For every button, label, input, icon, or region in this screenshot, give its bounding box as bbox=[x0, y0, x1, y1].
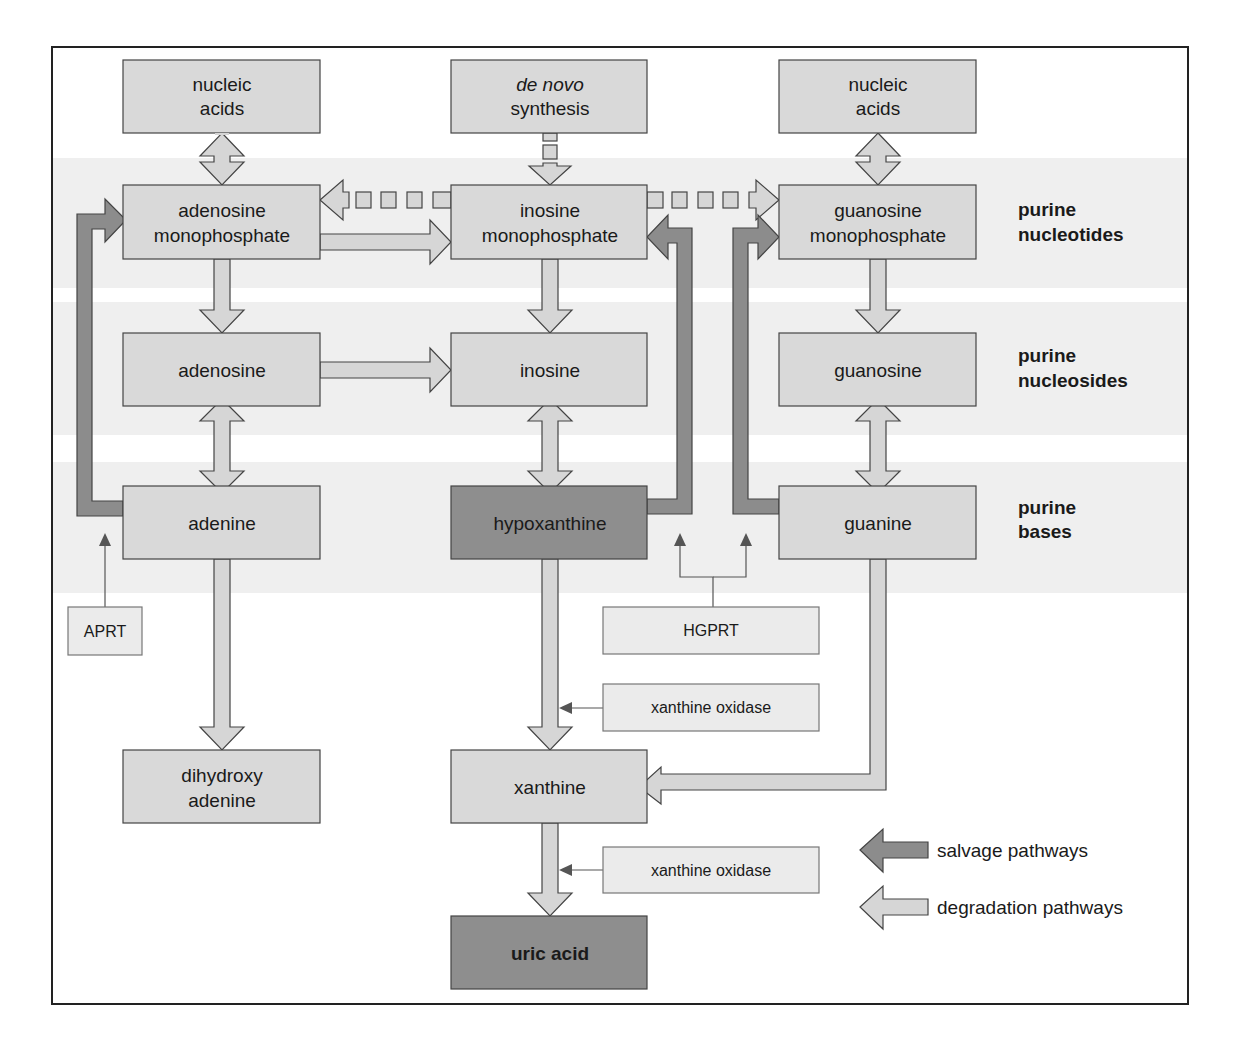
salvage-legend-arrow-icon bbox=[860, 829, 928, 872]
row-label-nucleotides-2: nucleotides bbox=[1018, 224, 1124, 245]
purine-metabolism-diagram: nucleic acids de novo synthesis nucleic … bbox=[0, 0, 1236, 1051]
legend-labels: salvage pathways degradation pathways bbox=[937, 840, 1123, 918]
label-de-novo: de novo bbox=[516, 74, 584, 95]
box-dihydroxy-adenine bbox=[123, 750, 320, 823]
label-dihydroxy: dihydroxy bbox=[181, 765, 263, 786]
label-hgprt: HGPRT bbox=[683, 622, 739, 639]
row-label-bases-1: purine bbox=[1018, 497, 1076, 518]
label-guanosine: guanosine bbox=[834, 360, 922, 381]
legend bbox=[860, 829, 928, 929]
label-amp-1: adenosine bbox=[178, 200, 266, 221]
label-aprt: APRT bbox=[84, 623, 127, 640]
label-guanine: guanine bbox=[844, 513, 912, 534]
label-adenosine: adenosine bbox=[178, 360, 266, 381]
label-nucleic-acids-right-1: nucleic bbox=[848, 74, 907, 95]
label-uric-acid: uric acid bbox=[511, 943, 589, 964]
label-xanthine: xanthine bbox=[514, 777, 586, 798]
de-novo-dash bbox=[543, 145, 557, 159]
de-novo-dash bbox=[543, 133, 557, 141]
box-nucleic-acids-left bbox=[123, 60, 320, 133]
label-dihydroxy-adenine: adenine bbox=[188, 790, 256, 811]
box-gmp bbox=[779, 185, 976, 259]
box-imp bbox=[451, 185, 647, 259]
row-label-nucleotides-1: purine bbox=[1018, 199, 1076, 220]
legend-label-degradation: degradation pathways bbox=[937, 897, 1123, 918]
label-gmp-1: guanosine bbox=[834, 200, 922, 221]
label-inosine: inosine bbox=[520, 360, 580, 381]
degradation-legend-arrow-icon bbox=[860, 886, 928, 929]
row-label-bases-2: bases bbox=[1018, 521, 1072, 542]
box-de-novo-synthesis bbox=[451, 60, 647, 133]
label-imp-1: inosine bbox=[520, 200, 580, 221]
label-synthesis: synthesis bbox=[510, 98, 589, 119]
label-nucleic-acids-right-2: acids bbox=[856, 98, 900, 119]
label-nucleic-acids-left-1: nucleic bbox=[192, 74, 251, 95]
label-nucleic-acids-left-2: acids bbox=[200, 98, 244, 119]
label-xanthine-oxidase-2: xanthine oxidase bbox=[651, 862, 771, 879]
label-imp-2: monophosphate bbox=[482, 225, 618, 246]
guanine-to-xanthine-arrow bbox=[639, 559, 886, 804]
label-xanthine-oxidase-1: xanthine oxidase bbox=[651, 699, 771, 716]
label-amp-2: monophosphate bbox=[154, 225, 290, 246]
label-adenine: adenine bbox=[188, 513, 256, 534]
label-hypoxanthine: hypoxanthine bbox=[493, 513, 606, 534]
row-label-nucleosides-1: purine bbox=[1018, 345, 1076, 366]
row-label-nucleosides-2: nucleosides bbox=[1018, 370, 1128, 391]
label-gmp-2: monophosphate bbox=[810, 225, 946, 246]
box-nucleic-acids-right bbox=[779, 60, 976, 133]
box-amp bbox=[123, 185, 320, 259]
legend-label-salvage: salvage pathways bbox=[937, 840, 1088, 861]
